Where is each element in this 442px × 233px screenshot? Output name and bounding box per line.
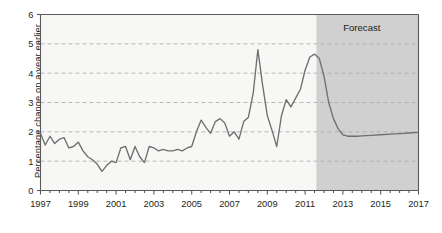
svg-text:1999: 1999 xyxy=(68,199,89,209)
svg-text:3: 3 xyxy=(28,98,33,108)
svg-text:Forecast: Forecast xyxy=(343,22,381,33)
forecast-annotation: Forecast xyxy=(343,22,381,33)
svg-text:2013: 2013 xyxy=(333,199,354,209)
svg-text:0: 0 xyxy=(28,186,33,196)
svg-text:1: 1 xyxy=(28,157,33,167)
svg-text:2007: 2007 xyxy=(219,199,240,209)
svg-text:2: 2 xyxy=(28,127,33,137)
svg-text:2001: 2001 xyxy=(106,199,127,209)
svg-text:2005: 2005 xyxy=(181,199,202,209)
svg-text:4: 4 xyxy=(28,69,33,79)
svg-text:5: 5 xyxy=(28,39,33,49)
y-tick-labels: 0123456 xyxy=(28,10,33,196)
svg-text:2003: 2003 xyxy=(144,199,165,209)
svg-text:2009: 2009 xyxy=(257,199,278,209)
forecast-region xyxy=(316,15,418,191)
svg-text:2017: 2017 xyxy=(408,199,429,209)
line-chart: 0123456 19971999200120032005200720092011… xyxy=(0,0,442,233)
svg-text:2011: 2011 xyxy=(295,199,315,209)
chart-container: Percentage change on a year earlier 0123… xyxy=(0,0,442,233)
svg-text:1997: 1997 xyxy=(30,199,51,209)
x-tick-labels: 1997199920012003200520072009201120132015… xyxy=(30,199,429,209)
svg-text:2015: 2015 xyxy=(370,199,391,209)
svg-text:6: 6 xyxy=(28,10,33,20)
